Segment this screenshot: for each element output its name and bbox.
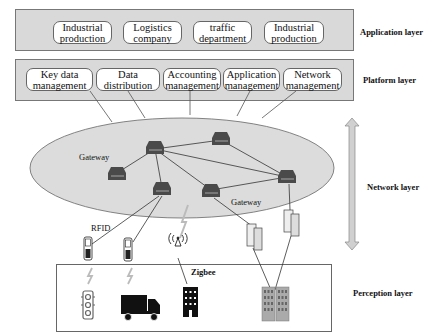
- gateway-label-left: Gateway: [79, 152, 109, 162]
- router-icon: [202, 184, 220, 197]
- router-icon: [146, 141, 164, 154]
- rfid-reader-icon: [84, 237, 92, 260]
- network-cloud: [30, 118, 334, 218]
- server-icon: [284, 210, 299, 236]
- perception-layer-label: Perception layer: [353, 288, 413, 298]
- router-icon: [108, 167, 126, 180]
- wireless-bolt-icon: [128, 268, 132, 284]
- router-icon: [153, 182, 171, 195]
- traffic-light-icon: [81, 291, 95, 319]
- rfid-reader-icon: [124, 238, 132, 261]
- network-layer-double-arrow-icon: [345, 118, 359, 250]
- office-towers-icon: [262, 287, 289, 321]
- server-icon: [247, 224, 262, 250]
- router-icon: [212, 132, 230, 145]
- zigbee-antenna-icon: [169, 233, 187, 246]
- wireless-bolt-icon: [88, 268, 92, 284]
- network-layer-label: Network layer: [367, 182, 419, 192]
- gateway-label-right: Gateway: [231, 197, 261, 207]
- building-icon: [183, 287, 198, 317]
- zigbee-label: Zigbee: [191, 267, 216, 277]
- network-diagram: [0, 0, 431, 333]
- router-icon: [278, 170, 296, 183]
- truck-icon: [121, 295, 160, 321]
- platform-links: [90, 91, 296, 122]
- rfid-label: RFID: [91, 223, 110, 233]
